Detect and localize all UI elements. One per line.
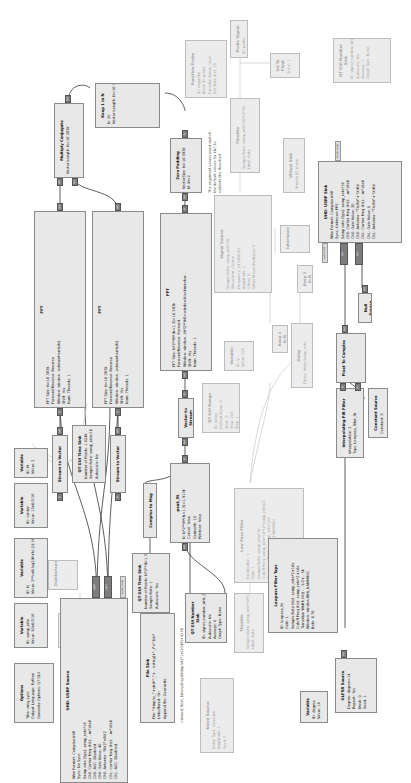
block-vector-to-stream[interactable]: Vector to Stream xyxy=(178,398,194,438)
block-keep-1-in-n-a[interactable]: Keep 1 in N xyxy=(272,325,288,353)
block-options[interactable]: Options Title: zmq_sync Output Language:… xyxy=(14,663,54,723)
port-zeropad-out[interactable]: out xyxy=(182,193,188,201)
block-interpolating-fir[interactable]: Interpolating FIR Filter Interpolation: … xyxy=(336,388,364,458)
block-glfsr-source[interactable]: GLFSR Source Degree: degree=14 Repeat: Y… xyxy=(335,658,377,713)
port-fft1-out[interactable]: out xyxy=(57,203,63,211)
flowgraph-canvas[interactable]: Options Title: zmq_sync Output Language:… xyxy=(0,0,411,783)
block-variable-center[interactable]: Variable ID: center Value: 15e6/2/16 xyxy=(14,483,48,528)
port-stv2-in[interactable]: in xyxy=(115,493,121,501)
block-float-to-complex[interactable]: Float To Complex xyxy=(336,333,366,383)
block-throttle-2[interactable]: Throttle Sample Rate: samp_rate*16*(2**M… xyxy=(230,98,260,173)
port-usrp-sink-async-msgs[interactable]: async_msgs xyxy=(335,141,341,161)
block-multiply-conjugate[interactable]: Multiply Conjugate Vector Length: N=16.3… xyxy=(54,103,84,178)
port-multconj-out[interactable]: out xyxy=(65,95,71,103)
block-delay[interactable]: Delay Delay: delay/samp_rate xyxy=(291,323,313,388)
block-keep-1-in-n-b[interactable]: Keep 1 in N xyxy=(297,265,313,293)
comment-file-sink: =mixed_float_binary/inspd/Nmplot2*1n(204… xyxy=(180,628,185,723)
block-zero-padding[interactable]: Zero Padding VectorSize: N=16.383k M: M=… xyxy=(170,138,202,193)
block-complex-to-mag[interactable]: Complex to Mag xyxy=(143,483,157,538)
block-variable-n[interactable]: Variable ID: N Value: 2**ceil(log2(M+N-1… xyxy=(14,538,48,598)
port-usrp-source-out0[interactable]: out0 xyxy=(92,576,100,598)
block-qt-number-sink-bottom[interactable]: QT GUI Number Sink ID: signal_number_sin… xyxy=(185,593,227,643)
block-null-source[interactable]: Null Source xyxy=(358,293,372,323)
port-null-out[interactable]: out xyxy=(362,285,368,293)
block-variable-disabled[interactable]: Variable ID: g Value: 200 xyxy=(224,341,254,371)
port-usrp-sink-in1[interactable]: in1 xyxy=(355,243,363,265)
block-signal-source[interactable]: Signal Source Sample Rate: samp_rate*16 … xyxy=(214,195,272,293)
block-int-to-float[interactable]: Int To Float Scale: 1 xyxy=(270,53,300,78)
port-zeropad-in[interactable]: in xyxy=(182,130,188,138)
port-f2c-re[interactable]: re xyxy=(340,383,346,391)
port-glfsr-out[interactable]: out xyxy=(341,650,347,658)
block-file-sink[interactable]: File Sink File: "/tmp/sc_"+str(i*"_"+...… xyxy=(140,613,175,723)
block-throttle-1[interactable]: Throttle Sample Rate: samp_rate*16*(2**M… xyxy=(234,593,264,653)
block-qt-gui-range[interactable]: QT GUI Range ID: delay Default Value: 0 … xyxy=(202,383,240,433)
port-peakfit-in[interactable]: in xyxy=(182,455,188,463)
block-variable-samp-rate[interactable]: Variable ID: samp_rate Value: 50e6/2/16 xyxy=(14,603,48,648)
port-stv2-out[interactable]: out xyxy=(115,427,121,435)
block-fft-1[interactable]: FFT FFT Size: N=16.383k Forward/Reverse:… xyxy=(34,211,86,408)
block-noise-source[interactable]: Noise Source Noise Type: Gaussian Amplit… xyxy=(200,678,234,753)
port-stv1-out[interactable]: out xyxy=(57,427,63,435)
port-usrp-sink-in0[interactable]: in0 xyxy=(340,243,348,265)
port-usrp-source-async-msgs[interactable]: async_msgs xyxy=(120,576,126,598)
comment-zero-padding-note: The argument values must match the defau… xyxy=(208,132,223,193)
block-stream-to-vector-2[interactable]: Stream to Vector xyxy=(110,435,126,493)
block-qt-time-sink-bottom[interactable]: QT GUI Time Sink Number of Points: N*2**… xyxy=(132,553,170,613)
block-interleave[interactable]: Interleave xyxy=(280,225,310,253)
block-function-probe[interactable]: Function Probe ID: myprobe Block ID: pro… xyxy=(185,40,227,98)
port-vts-out[interactable]: out xyxy=(182,438,188,446)
block-usrp-source[interactable]: UHD: USRP Source Wire Format: Complex in… xyxy=(60,598,128,783)
port-fft3-in[interactable]: in xyxy=(182,205,188,213)
block-qt-number-sink-top[interactable]: QT GUI Number Sink ID: signal_number_sin… xyxy=(333,38,391,83)
block-keep-1-in-n-top[interactable]: Keep 1 in N N: 20 Vector Length: N=16.38… xyxy=(95,83,160,128)
block-qt-time-sink-top[interactable]: QT GUI Time Sink Number of Points: 1.024… xyxy=(72,425,106,483)
port-fft2-in[interactable]: in xyxy=(115,408,121,416)
port-multconj-in1[interactable]: in1 xyxy=(72,178,78,186)
port-multconj-in0[interactable]: in0 xyxy=(57,178,63,186)
port-vts-in[interactable]: in xyxy=(182,390,188,398)
block-fft-3[interactable]: FFT FFT Size: N*2**M*(N=1.3)=16.383k For… xyxy=(160,213,212,371)
block-variable-degree[interactable]: Variable ID: degree Value: 14 xyxy=(300,691,328,723)
port-usrp-source-out1[interactable]: out1 xyxy=(104,576,112,598)
port-f2c-out[interactable]: out xyxy=(342,325,348,333)
block-stream-to-vector-1[interactable]: Stream to Vector xyxy=(52,435,68,493)
block-peak-fit[interactable]: peak_fit N: N*2**M*(N=1.3)=1.913k Cancel… xyxy=(170,463,210,543)
port-peakfit-out[interactable]: out xyxy=(182,543,188,551)
block-virtual-sink[interactable]: Virtual Sink Stream ID: pulse xyxy=(283,138,305,193)
block-constant-source[interactable]: Constant Source Constant: 0 xyxy=(368,388,388,438)
port-fft2-out[interactable]: out xyxy=(115,203,121,211)
port-usrp-sink-command[interactable]: command xyxy=(322,243,328,263)
block-deinterleave[interactable]: Deinterleave xyxy=(48,560,78,590)
block-lowpass-filter-taps[interactable]: Lowpass Filter Taps ID: lowpass_fir Gain… xyxy=(268,538,338,633)
port-fft1-in[interactable]: in xyxy=(57,408,63,416)
block-usrp-sink[interactable]: UHD: USRP Sink Wire Format: Complex int8… xyxy=(318,161,402,243)
block-variable-m[interactable]: Variable ID: M Value: 2 xyxy=(14,448,48,478)
port-f2c-im[interactable]: im xyxy=(355,383,361,391)
block-probe-signal[interactable]: Probe Signal ID: probe xyxy=(230,20,248,58)
block-fft-2[interactable]: FFT FFT Size: N=16.383k Forward/Reverse:… xyxy=(92,211,144,408)
port-fft3-out[interactable]: out xyxy=(182,371,188,379)
port-stv1-in[interactable]: in xyxy=(57,493,63,501)
